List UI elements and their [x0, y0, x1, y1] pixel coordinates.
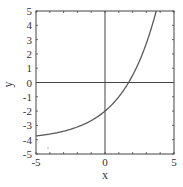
- x-tick-label: -5: [31, 156, 41, 168]
- chart: -5-4-3-2-1012345-505xy: [0, 0, 183, 187]
- x-tick-label: 0: [102, 156, 108, 168]
- y-tick-label: 2: [27, 48, 33, 60]
- y-tick-label: -3: [23, 119, 33, 131]
- y-tick-label: -1: [23, 91, 32, 103]
- y-tick-label: 0: [27, 77, 33, 89]
- y-tick-label: 5: [27, 5, 33, 17]
- y-tick-label: 4: [27, 19, 33, 31]
- y-tick-label: 1: [27, 62, 33, 74]
- y-axis-label: y: [1, 82, 15, 88]
- stray-dot: [47, 147, 49, 149]
- y-tick-label: -2: [23, 105, 32, 117]
- x-tick-label: 5: [171, 156, 177, 168]
- y-tick-label: 3: [27, 34, 33, 46]
- plot-area: -5-4-3-2-1012345-505xy: [1, 0, 177, 182]
- y-tick-label: -4: [23, 134, 33, 146]
- x-axis-label: x: [102, 168, 108, 182]
